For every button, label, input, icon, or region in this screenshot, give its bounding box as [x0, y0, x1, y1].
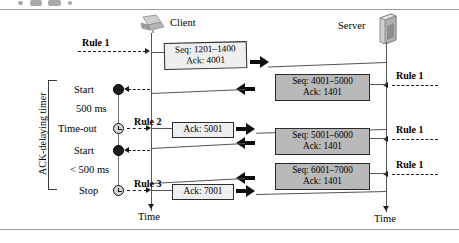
server-rule-1-dash — [392, 85, 438, 86]
server-rule-3-label: Rule 1 — [396, 160, 424, 170]
client-rule-1-arrowhead — [145, 48, 150, 54]
seg-client-1-seq: Seq: 1201–1400 — [175, 43, 236, 54]
client-label: Client — [170, 18, 196, 29]
timer-stop-1-marker — [113, 185, 124, 196]
seg-client-1-stub — [151, 52, 165, 53]
ack-delaying-timer-bracket — [48, 80, 57, 190]
timer-axis-line — [118, 90, 119, 191]
timer-interval-1-label: 500 ms — [76, 104, 107, 115]
timer-start-1-marker — [113, 84, 124, 95]
seg-server-1-stub — [370, 84, 387, 85]
seg-server-3-seq: Seq: 6001–7000 — [292, 165, 353, 175]
seg-server-2-packet: Seq: 5001–6000 Ack: 1401 — [275, 128, 370, 155]
ack-delaying-timer-figure: Client Time Server Time Rule 1 Seq: 1201… — [0, 0, 459, 243]
seg-server-3-packet: Seq: 6001–7000 Ack: 1401 — [275, 163, 370, 190]
timer-start-2-dash — [128, 150, 150, 151]
seg-server-3-stub — [370, 173, 387, 174]
timer-start-2-arrowhead — [124, 147, 129, 153]
laptop-icon — [140, 14, 166, 34]
client-time-label: Time — [138, 212, 160, 223]
seg-client-3-line — [256, 191, 386, 195]
page-clip-artifact — [0, 0, 459, 9]
figure-top-divider — [0, 9, 459, 10]
server-lifeline — [386, 42, 387, 212]
seg-server-2-ack: Ack: 1401 — [280, 141, 365, 152]
seg-server-2-line — [151, 143, 245, 149]
seg-server-1-packet: Seq: 4001–5000 Ack: 1401 — [275, 74, 370, 101]
seg-server-1-ack: Ack: 1401 — [280, 87, 365, 98]
seg-client-1-ack: Ack: 4001 — [169, 54, 242, 67]
seg-client-1-line — [268, 62, 386, 68]
server-tower-icon — [378, 12, 398, 44]
timer-stop-1-label: Stop — [79, 186, 98, 197]
server-rule-2-dash — [392, 139, 438, 140]
timer-start-1-dash — [128, 89, 150, 90]
seg-client-2-stub — [151, 128, 173, 129]
ack-delaying-timer-label: ACK-delaying timer — [37, 86, 49, 182]
server-rule-2-label: Rule 1 — [396, 125, 424, 135]
timer-start-2-label: Start — [74, 146, 94, 157]
client-rule-1-label: Rule 1 — [82, 38, 110, 48]
client-rule-1-dash — [78, 51, 146, 52]
client-rule-3-dash — [127, 190, 147, 191]
seg-client-1-packet: Seq: 1201–1400 Ack: 4001 — [164, 41, 248, 70]
seg-server-1-line — [151, 89, 245, 94]
seg-client-3-stub — [151, 190, 173, 191]
timer-timeout-1-label: Time-out — [58, 124, 97, 135]
server-rule-3-dash — [392, 174, 438, 175]
timer-start-2-marker — [113, 145, 124, 156]
timer-timeout-1-marker — [113, 123, 124, 134]
client-rule-2-dash — [127, 128, 147, 129]
figure-bottom-divider — [0, 229, 459, 230]
server-rule-1-label: Rule 1 — [396, 71, 424, 81]
server-label: Server — [338, 21, 365, 32]
seg-server-1-seq: Seq: 4001–5000 — [292, 76, 353, 86]
seg-client-3-seq: Ack: 7001 — [184, 186, 223, 196]
seg-client-2-packet: Ack: 5001 — [172, 122, 234, 138]
timer-start-1-label: Start — [74, 85, 94, 96]
timer-interval-2-label: < 500 ms — [70, 165, 109, 176]
seg-client-2-seq: Ack: 5001 — [184, 124, 223, 134]
seg-client-3-packet: Ack: 7001 — [172, 184, 234, 200]
seg-server-3-ack: Ack: 1401 — [280, 176, 365, 187]
seg-server-2-seq: Seq: 5001–6000 — [292, 130, 353, 140]
timer-start-1-arrowhead — [124, 86, 129, 92]
server-time-label: Time — [374, 214, 396, 225]
seg-server-2-stub — [370, 138, 387, 139]
